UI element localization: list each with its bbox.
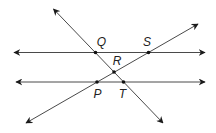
label-q: Q — [97, 35, 106, 49]
point-p — [95, 80, 99, 84]
line-transversal-PRS — [26, 24, 198, 123]
label-t: T — [119, 87, 128, 101]
label-r: R — [113, 54, 122, 68]
label-p: P — [93, 87, 101, 101]
point-q — [94, 51, 98, 55]
point-r — [112, 70, 116, 74]
label-s: S — [143, 35, 151, 49]
point-s — [147, 51, 151, 55]
lines-group — [14, 9, 205, 123]
point-t — [122, 80, 126, 84]
geometry-diagram: QSRPT — [0, 0, 216, 133]
line-transversal-QRT — [54, 9, 164, 123]
